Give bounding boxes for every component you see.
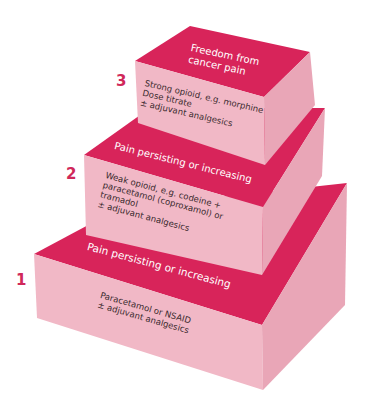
step-number-2: 2: [66, 165, 76, 183]
step-number-3: 3: [116, 72, 126, 90]
step-number-1: 1: [16, 271, 26, 289]
